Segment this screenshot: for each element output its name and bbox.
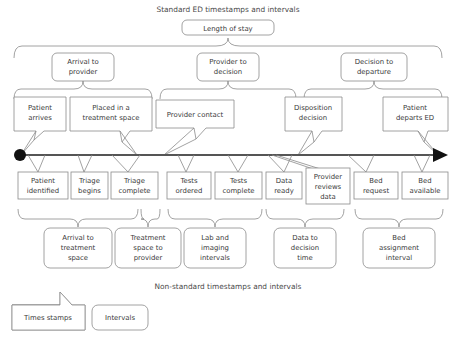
- nsiv-2c: provider: [134, 254, 163, 262]
- nsts-3a: Triage: [123, 177, 145, 185]
- ts-label-2b: treatment space: [83, 114, 140, 122]
- nsts-6b: ready: [274, 187, 294, 195]
- nsiv-3b: imaging: [201, 244, 229, 252]
- timestamp-callout-provider-contact: Provider contact: [156, 100, 234, 155]
- major-interval-label-1a: Arrival to: [67, 58, 99, 66]
- brace-bed-assignment-interval: [355, 209, 443, 227]
- legend-item-intervals: Intervals: [92, 305, 148, 330]
- major-interval-label-3a: Decision to: [355, 58, 393, 66]
- ns-timestamp-tests-ordered: Tests ordered: [167, 155, 211, 199]
- nsts-5b: complete: [222, 187, 254, 195]
- ts-label-4a: Disposition: [294, 104, 332, 112]
- timestamp-callout-patient-arrives: Patient arrives: [14, 97, 66, 155]
- legend-label-2: Intervals: [105, 314, 135, 322]
- ts-label-5b: departs ED: [396, 114, 434, 122]
- nsiv-5c: interval: [386, 254, 412, 262]
- nsts-8a: Bed: [369, 177, 382, 185]
- nsiv-1b: treatment: [61, 244, 96, 252]
- nsiv-5b: assignment: [379, 244, 419, 252]
- brace-decision-to-departure: [304, 81, 442, 99]
- ns-timestamp-bed-available: Bed available: [402, 155, 448, 199]
- diagram-canvas: Standard ED timestamps and intervals Len…: [0, 0, 454, 345]
- nsiv-3c: intervals: [200, 254, 230, 262]
- nsiv-5a: Bed: [392, 234, 405, 242]
- nsts-2a: Triage: [78, 177, 100, 185]
- ts-label-3: Provider contact: [167, 111, 224, 119]
- timestamp-callout-patient-departs-ed: Patient departs ED: [383, 97, 448, 155]
- ts-label-5a: Patient: [403, 104, 427, 112]
- ns-timestamp-triage-complete: Triage complete: [111, 155, 158, 199]
- nsts-9b: available: [409, 187, 440, 195]
- nsts-8b: request: [363, 187, 389, 195]
- overall-interval-label: Length of stay: [203, 25, 252, 33]
- nsiv-4c: time: [297, 254, 313, 262]
- major-interval-label-1b: provider: [69, 68, 98, 76]
- major-interval-label-2a: Provider to: [209, 58, 246, 66]
- timeline-start-dot: [14, 149, 26, 161]
- brace-provider-to-decision: [160, 81, 296, 99]
- timeline-end-arrow: [433, 148, 448, 162]
- ts-label-4b: decision: [299, 114, 327, 122]
- nsts-7a: Provider: [314, 173, 343, 181]
- ts-label-1a: Patient: [28, 104, 52, 112]
- ns-timestamp-tests-complete: Tests complete: [215, 155, 262, 199]
- brace-treatment-space-to-provider: [141, 209, 160, 227]
- timestamp-callout-disposition-decision: Disposition decision: [285, 97, 342, 155]
- timestamp-callout-placed-in-treatment-space: Placed in a treatment space: [70, 97, 152, 155]
- ts-label-1b: arrives: [28, 114, 52, 122]
- nsiv-3a: Lab and: [201, 234, 229, 242]
- nsts-3b: complete: [118, 187, 150, 195]
- major-interval-label-2b: decision: [214, 68, 242, 76]
- nsiv-1a: Arrival to: [62, 234, 94, 242]
- nsts-5a: Tests: [229, 177, 248, 185]
- top-title: Standard ED timestamps and intervals: [156, 5, 299, 14]
- brace-data-to-decision-time: [266, 209, 344, 227]
- brace-arrival-to-provider: [14, 81, 152, 99]
- nsts-6a: Data: [276, 177, 292, 185]
- bottom-title: Non-standard timestamps and intervals: [155, 282, 302, 291]
- ts-label-2a: Placed in a: [92, 104, 130, 112]
- brace-lab-and-imaging-intervals: [168, 209, 262, 227]
- nsts-7c: data: [320, 193, 336, 201]
- nsiv-1c: space: [68, 254, 88, 262]
- ns-timestamp-triage-begins: Triage begins: [71, 155, 108, 199]
- nsiv-2a: Treatment: [129, 234, 165, 242]
- legend-label-1: Times stamps: [23, 314, 72, 322]
- nsiv-4a: Data to: [292, 234, 318, 242]
- nsiv-4b: decision: [291, 244, 319, 252]
- nsts-4b: ordered: [176, 187, 203, 195]
- nsts-1a: Patient: [31, 177, 55, 185]
- nsts-9a: Bed: [418, 177, 431, 185]
- nsts-2b: begins: [78, 187, 101, 195]
- ns-timestamp-bed-request: Bed request: [348, 155, 398, 199]
- nsts-7b: reviews: [315, 183, 342, 191]
- major-interval-label-3b: departure: [357, 68, 391, 76]
- brace-arrival-to-treatment-space: [18, 209, 138, 227]
- ns-timestamp-patient-identified: Patient identified: [18, 155, 68, 199]
- nsiv-2b: space to: [133, 244, 162, 252]
- nsts-1b: identified: [27, 187, 59, 195]
- legend-item-times-stamps: Times stamps: [12, 292, 85, 330]
- nsts-4a: Tests: [179, 177, 198, 185]
